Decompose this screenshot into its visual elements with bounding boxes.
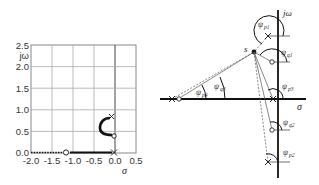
angle-label-q3: ψ q3 (214, 82, 226, 92)
x-tick--0.5: -0.5 (86, 155, 102, 166)
y-tick-2.0: 2.0 (16, 61, 29, 72)
y-tick-0.5: 0.5 (16, 126, 29, 137)
zero-q2 (270, 128, 274, 132)
jw-axis-label: jω (282, 8, 292, 18)
x-tick--1.0: -1.0 (65, 155, 81, 166)
angle-label-p3: ψ p3 (282, 82, 294, 92)
angle-label-p1: ψ p1 (258, 20, 270, 30)
x-tick--2.0: -2.0 (23, 155, 39, 166)
arc-p3 (268, 89, 283, 99)
svg-text:p4: p4 (201, 92, 208, 98)
svg-text:q3: q3 (220, 86, 226, 92)
svg-text:p3: p3 (287, 86, 294, 92)
angle-label-q2: ψ q2 (283, 118, 295, 128)
zero-marker-complex (112, 134, 116, 138)
zero-q3 (177, 97, 181, 101)
svg-text:q1: q1 (287, 52, 293, 58)
figure-canvas: 2.5 2.0 1.5 1.0 0.5 0.0 jω -2.0 -1.5 -1.… (0, 0, 319, 185)
y-tick-1.0: 1.0 (16, 104, 29, 115)
x-axis-label: σ (122, 165, 128, 176)
root-locus-plot: 2.5 2.0 1.5 1.0 0.5 0.0 jω -2.0 -1.5 -1.… (16, 40, 143, 176)
test-point-label: s (244, 44, 248, 54)
x-tick-0.5: 0.5 (129, 155, 142, 166)
y-tick-1.5: 1.5 (16, 83, 29, 94)
zero-q1 (270, 60, 274, 64)
x-tick--1.5: -1.5 (44, 155, 60, 166)
zero-marker (63, 150, 68, 155)
angle-condition-diagram: jω σ s (160, 8, 306, 178)
angle-label-p2: ψ p2 (283, 148, 295, 158)
y-axis-label: jω (18, 50, 29, 61)
sigma-axis-label: σ (297, 101, 303, 112)
svg-text:p2: p2 (288, 152, 295, 158)
angle-label-q1: ψ q1 (281, 48, 293, 58)
x-tick-0.0: 0.0 (108, 155, 121, 166)
svg-text:q2: q2 (289, 122, 295, 128)
svg-text:p1: p1 (263, 24, 270, 30)
angle-label-p4: ψ p4 (196, 88, 208, 98)
